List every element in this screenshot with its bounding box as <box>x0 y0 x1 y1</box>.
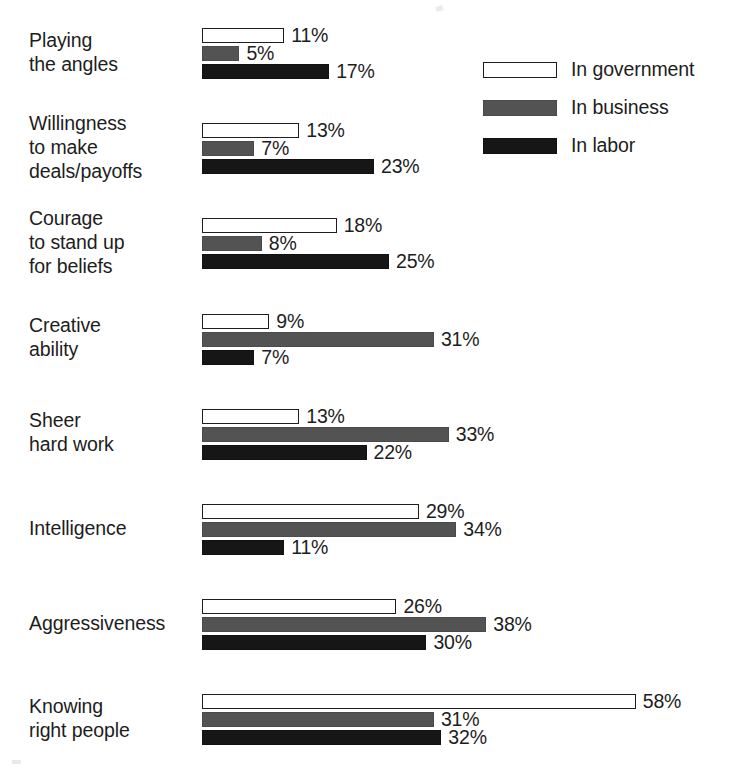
bar-lab <box>202 540 284 555</box>
bar-value-label: 34% <box>463 519 501 540</box>
bar-value-label: 30% <box>433 632 471 653</box>
bar-gov <box>202 123 299 138</box>
bar-gov <box>202 409 299 424</box>
legend-label-gov: In government <box>571 58 694 80</box>
bar-value-label: 8% <box>269 233 297 254</box>
bar-value-label: 31% <box>441 329 479 350</box>
bar-value-label: 11% <box>291 25 328 46</box>
bar-value-label: 23% <box>381 156 419 177</box>
bar-bus <box>202 427 449 442</box>
bar-gov <box>202 28 284 43</box>
bar-gov <box>202 694 636 709</box>
bar-value-label: 22% <box>374 442 412 463</box>
bar-group-label: Intelligence <box>29 516 197 540</box>
bar-group-label: Aggressiveness <box>29 611 197 635</box>
legend-label-lab: In labor <box>571 134 635 156</box>
bar-bus <box>202 236 262 251</box>
bar-lab <box>202 635 426 650</box>
bar-value-label: 9% <box>276 311 304 332</box>
bar-group-label: Courage to stand up for beliefs <box>29 206 197 278</box>
bar-lab <box>202 445 367 460</box>
bar-bus <box>202 141 254 156</box>
bar-bus <box>202 617 486 632</box>
bar-group-label: Creative ability <box>29 313 197 361</box>
legend-swatch-lab <box>483 138 557 154</box>
bar-group-label: Playing the angles <box>29 28 197 76</box>
bar-lab <box>202 159 374 174</box>
paper-speckle <box>435 5 443 12</box>
legend-label-bus: In business <box>571 96 669 118</box>
bar-lab <box>202 730 441 745</box>
bar-value-label: 25% <box>396 251 434 272</box>
bar-bus <box>202 46 239 61</box>
paper-speckle <box>12 760 21 764</box>
bar-gov <box>202 314 269 329</box>
bar-value-label: 5% <box>246 43 274 64</box>
bar-bus <box>202 332 434 347</box>
bar-bus <box>202 522 456 537</box>
bar-value-label: 32% <box>448 727 486 748</box>
bar-value-label: 58% <box>643 691 681 712</box>
bar-gov <box>202 218 337 233</box>
bar-value-label: 26% <box>403 596 441 617</box>
legend-swatch-bus <box>483 100 557 116</box>
bar-value-label: 29% <box>426 501 464 522</box>
horizontal-bar-chart: Playing the angles11%5%17%Willingness to… <box>0 0 740 784</box>
bar-group-label: Willingness to make deals/payoffs <box>29 111 197 183</box>
bar-group-label: Knowing right people <box>29 694 197 742</box>
bar-lab <box>202 350 254 365</box>
bar-value-label: 13% <box>306 406 344 427</box>
bar-gov <box>202 504 419 519</box>
bar-value-label: 18% <box>344 215 382 236</box>
bar-value-label: 7% <box>261 347 289 368</box>
bar-value-label: 13% <box>306 120 344 141</box>
bar-value-label: 33% <box>456 424 494 445</box>
bar-value-label: 17% <box>336 61 374 82</box>
legend-swatch-gov <box>483 62 557 78</box>
bar-value-label: 7% <box>261 138 289 159</box>
bar-lab <box>202 254 389 269</box>
bar-value-label: 38% <box>493 614 531 635</box>
bar-gov <box>202 599 396 614</box>
bar-lab <box>202 64 329 79</box>
bar-value-label: 11% <box>291 537 328 558</box>
bar-bus <box>202 712 434 727</box>
bar-group-label: Sheer hard work <box>29 408 197 456</box>
